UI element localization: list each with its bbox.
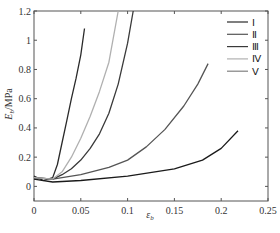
y-tick-label: 0.6 [19,93,32,104]
legend-label: Ⅰ [252,17,255,28]
y-tick-label: 0.2 [19,152,32,163]
legend-label: Ⅴ [252,66,259,77]
series-lines [34,11,238,182]
legend-label: Ⅲ [252,41,259,52]
y-tick-label: 0 [26,181,31,192]
x-tick-label: 0.25 [259,205,277,216]
x-tick-label: 0.15 [166,205,184,216]
y-axis-title: Eb/MPa [3,88,16,121]
x-tick-label: 0.2 [215,205,228,216]
x-tick-label: 0.1 [121,205,134,216]
y-tick-label: 0.8 [19,64,32,75]
x-axis-title: εb [146,209,154,222]
series-line [34,131,238,182]
series-line [34,29,85,181]
y-tick-label: 1 [26,35,31,46]
legend-label: Ⅱ [252,29,257,40]
x-tick-label: 0.05 [72,205,90,216]
series-line [34,64,208,180]
legend-label: Ⅳ [252,53,262,64]
legend: ⅠⅡⅢⅣⅤ [227,17,262,77]
line-chart: 00.050.10.150.20.25 00.20.40.60.811.2 ⅠⅡ… [0,0,280,233]
series-line [34,11,118,179]
y-axis-ticks: 00.20.40.60.811.2 [19,6,269,192]
y-tick-label: 1.2 [19,6,32,17]
x-tick-label: 0 [32,205,37,216]
y-tick-label: 0.4 [19,122,32,133]
